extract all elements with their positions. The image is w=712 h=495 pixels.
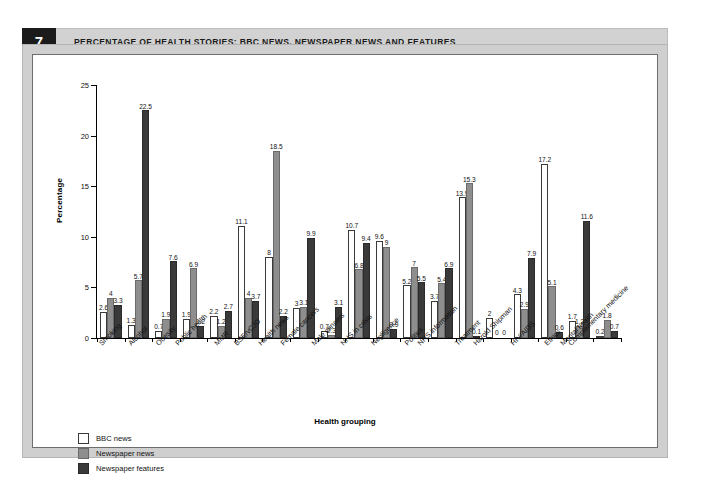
x-label-cell: MMR xyxy=(207,339,235,414)
bar: 15.3 xyxy=(466,183,473,338)
bar-value-label: 6.9 xyxy=(444,262,453,269)
bar-value-label: 10.7 xyxy=(345,223,358,230)
legend-swatch xyxy=(78,448,89,459)
bar-value-label: 7 xyxy=(412,261,416,268)
bar-value-label: 17.2 xyxy=(538,157,551,164)
x-label-cell: Obesity xyxy=(152,339,180,414)
bar: 22.5 xyxy=(142,110,149,338)
x-label-cell: NHS in crisis xyxy=(345,339,373,414)
bar-value-label: 18.5 xyxy=(270,144,283,151)
bar-group: 4.32.97.9 xyxy=(511,85,539,338)
bar-value-label: 5.5 xyxy=(417,276,426,283)
bar-value-label: 7.9 xyxy=(527,251,536,258)
bar-group: 17.25.10.6 xyxy=(538,85,566,338)
bar-value-label: 8 xyxy=(267,250,271,257)
bar-group: 200 xyxy=(483,85,511,338)
bar-value-label: 3.7 xyxy=(251,294,260,301)
x-axis-labels: SmokingAlcoholObesityPublic healthMMRBSE… xyxy=(97,339,621,414)
bar-group: 2.643.3 xyxy=(97,85,125,338)
bar: 6.9 xyxy=(445,268,452,338)
bar-value-label: 3 xyxy=(295,301,299,308)
legend-label: Newspaper features xyxy=(96,464,164,473)
x-label-cell: Health news xyxy=(262,339,290,414)
x-label-cell: HIV/AIDS xyxy=(511,339,539,414)
x-label-cell: Smoking xyxy=(97,339,125,414)
bar-value-label: 3.1 xyxy=(334,300,343,307)
bar: 5.2 xyxy=(403,285,410,338)
bar-value-label: 0 xyxy=(495,330,499,337)
bar-value-label: 6.9 xyxy=(189,262,198,269)
bar-value-label: 7.6 xyxy=(169,255,178,262)
bar: 0.7 xyxy=(611,331,618,338)
y-tick-label: 0 xyxy=(85,334,89,343)
bar-group: 9.690.9 xyxy=(373,85,401,338)
legend-item: Newspaper news xyxy=(78,448,164,459)
y-tick xyxy=(91,186,96,187)
bar: 11.1 xyxy=(238,226,245,338)
legend-item: Newspaper features xyxy=(78,463,164,474)
bar-value-label: 9.9 xyxy=(306,231,315,238)
legend-label: BBC news xyxy=(96,434,131,443)
bar: 10.7 xyxy=(348,230,355,338)
legend-swatch xyxy=(78,433,89,444)
bar-value-label: 11.6 xyxy=(581,214,593,221)
bar: 13.9 xyxy=(459,197,466,338)
bar-value-label: 4.3 xyxy=(513,288,522,295)
bar-value-label: 9.4 xyxy=(362,236,371,243)
legend-label: Newspaper news xyxy=(96,449,154,458)
bar-group: 1.71.211.6 xyxy=(566,85,594,338)
x-label-cell: Mental health xyxy=(566,339,594,414)
x-label-cell: NHS information xyxy=(428,339,456,414)
legend-item: BBC news xyxy=(78,433,164,444)
bar-value-label: 4 xyxy=(247,291,251,298)
x-label-cell: Complementary medicine xyxy=(593,339,621,414)
x-label-cell: Alcohol xyxy=(125,339,153,414)
bar-value-label: 11.1 xyxy=(235,219,247,226)
bar-group: 1.35.722.5 xyxy=(125,85,153,338)
x-label-cell: Negligence xyxy=(373,339,401,414)
y-tick xyxy=(91,136,96,137)
bar-group: 3.75.46.9 xyxy=(428,85,456,338)
bar-value-label: 3.3 xyxy=(113,298,122,305)
bar-group: 2.21.22.7 xyxy=(207,85,235,338)
bar-value-label: 2.2 xyxy=(209,309,218,316)
bar-group: 818.52.2 xyxy=(262,85,290,338)
bar-value-label: 2.7 xyxy=(224,304,233,311)
bar-value-label: 5.1 xyxy=(547,280,556,287)
y-tick-label: 15 xyxy=(81,182,89,191)
x-label-cell: Male cancers xyxy=(318,339,346,414)
y-tick xyxy=(91,85,96,86)
bar-group: 0.70.33.1 xyxy=(318,85,346,338)
x-label-cell: Politics xyxy=(400,339,428,414)
bar-value-label: 9.6 xyxy=(375,234,384,241)
y-tick xyxy=(91,287,96,288)
bar: 0.2 xyxy=(596,336,603,338)
x-label-cell: Public health xyxy=(180,339,208,414)
x-label-cell: BSE/vCJD xyxy=(235,339,263,414)
bar-value-label: 9 xyxy=(385,240,389,247)
x-axis-title: Health grouping xyxy=(33,417,657,426)
y-axis-title: Percentage xyxy=(55,178,64,223)
x-label-cell: Treatment xyxy=(456,339,484,414)
x-label-cell: Female cancers xyxy=(290,339,318,414)
x-tick xyxy=(621,338,622,342)
x-label-cell: Harold Shipman xyxy=(483,339,511,414)
bar-value-label: 2 xyxy=(488,311,492,318)
bar-group: 11.143.7 xyxy=(235,85,263,338)
legend-swatch xyxy=(78,463,89,474)
bar: 9.6 xyxy=(376,241,383,338)
x-label-cell: Ethics xyxy=(538,339,566,414)
y-tick-label: 25 xyxy=(81,81,89,90)
y-tick xyxy=(91,338,96,339)
bar-groups: 2.643.31.35.722.50.71.97.61.96.91.22.21.… xyxy=(97,85,621,338)
bar-value-label: 0 xyxy=(502,330,506,337)
bar-value-label: 15.3 xyxy=(463,177,476,184)
bar-group: 13.915.30.1 xyxy=(456,85,484,338)
y-tick-label: 10 xyxy=(81,232,89,241)
bar: 17.2 xyxy=(541,164,548,338)
y-tick xyxy=(91,237,96,238)
plot-area: 0510152025 2.643.31.35.722.50.71.97.61.9… xyxy=(96,85,621,338)
bar-group: 0.71.97.6 xyxy=(152,85,180,338)
y-tick-label: 5 xyxy=(85,283,89,292)
bar: 0.3 xyxy=(328,335,335,338)
